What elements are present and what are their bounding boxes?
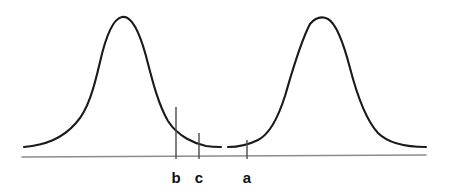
- left-bell-curve: [24, 17, 221, 147]
- right-bell-curve: [228, 17, 426, 147]
- baseline-axis: [22, 155, 426, 157]
- plot-area: [0, 0, 451, 195]
- tick-label-b: b: [164, 170, 188, 186]
- tick-label-a: a: [235, 170, 259, 186]
- bell-curve-figure: b c a: [0, 0, 451, 195]
- tick-label-c: c: [187, 170, 211, 186]
